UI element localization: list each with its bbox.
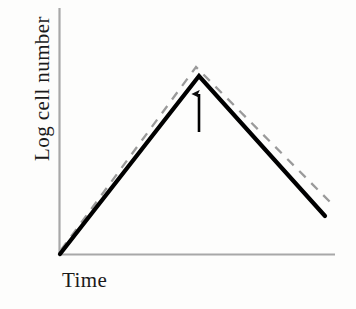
figure-container: Log cell number Time xyxy=(0,0,356,309)
solid-growth-curve xyxy=(60,76,325,254)
y-axis-label: Log cell number xyxy=(30,1,55,177)
x-axis-label: Time xyxy=(62,268,107,293)
axis-lines xyxy=(59,8,336,256)
dashed-reference-curve xyxy=(61,67,334,250)
